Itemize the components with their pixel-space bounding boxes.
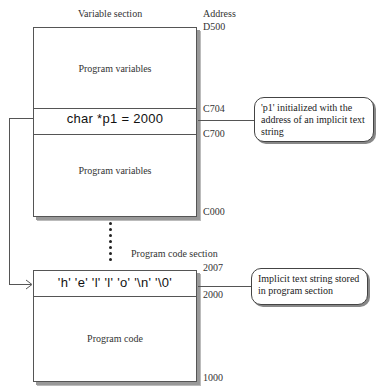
- continuation-dot: [109, 246, 112, 249]
- program-code-label: Program code: [34, 333, 196, 344]
- divider-2000: [34, 296, 196, 297]
- continuation-dot: [109, 258, 112, 261]
- continuation-dot: [109, 228, 112, 231]
- variable-section-box: Program variables char *p1 = 2000 Progra…: [33, 27, 197, 217]
- continuation-dot: [109, 252, 112, 255]
- variable-section-title: Variable section: [78, 8, 142, 19]
- program-variables-lower: Program variables: [34, 165, 196, 176]
- program-section-title: Program code section: [131, 248, 218, 259]
- program-variables-upper: Program variables: [34, 63, 196, 74]
- pointer-callout-connector: [198, 120, 254, 121]
- address-c000: C000: [203, 206, 225, 217]
- divider-c700: [34, 134, 196, 135]
- string-literal-row: 'h' 'e' 'l' 'l' 'o' '\n' '\0': [34, 275, 196, 290]
- program-code-box: 'h' 'e' 'l' 'l' 'o' '\n' '\0' Program co…: [33, 270, 197, 382]
- string-callout: Implicit text string stored in program s…: [251, 268, 368, 305]
- string-callout-connector: [198, 286, 251, 287]
- address-2000: 2000: [203, 289, 223, 300]
- continuation-dot: [109, 240, 112, 243]
- address-c700: C700: [203, 128, 225, 139]
- divider-c704: [34, 108, 196, 109]
- pointer-arrow-start: [9, 118, 33, 119]
- continuation-dot: [109, 234, 112, 237]
- address-c704: C704: [203, 103, 225, 114]
- pointer-arrow-vertical: [9, 118, 10, 284]
- pointer-callout: 'p1' initialized with the address of an …: [254, 97, 374, 142]
- address-d500: D500: [203, 21, 225, 32]
- continuation-dot: [109, 222, 112, 225]
- address-1000: 1000: [203, 372, 223, 383]
- pointer-declaration: char *p1 = 2000: [34, 111, 196, 126]
- address-2007: 2007: [203, 262, 223, 273]
- address-header: Address: [203, 8, 236, 19]
